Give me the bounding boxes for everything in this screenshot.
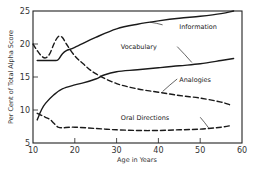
y-tick-label: 15 [20, 73, 30, 82]
leader-line [200, 117, 208, 128]
series-vocabulary [37, 59, 233, 120]
line-chart: 102030405060510152025 InformationVocabul… [0, 0, 256, 171]
y-axis-label: Per Cent of Total Alpha Score [7, 30, 15, 124]
annotation-oral-directions: Oral Directions [121, 114, 170, 122]
x-axis-label: Age in Years [117, 156, 157, 164]
y-tick-label: 5 [25, 139, 30, 148]
x-tick-label: 20 [70, 146, 80, 155]
x-tick-label: 30 [112, 146, 122, 155]
series-information [37, 11, 233, 61]
x-tick-label: 50 [195, 146, 205, 155]
y-tick-label: 20 [20, 40, 30, 49]
y-tick-label: 10 [20, 106, 30, 115]
x-tick-label: 40 [153, 146, 163, 155]
leader-line [150, 22, 163, 25]
annotation-information: Information [179, 23, 217, 31]
annotations: InformationVocabularyAnalogiesOral Direc… [121, 22, 217, 128]
leader-line [177, 47, 192, 63]
x-tick-label: 60 [237, 146, 247, 155]
annotation-analogies: Analogies [179, 76, 211, 84]
annotation-vocabulary: Vocabulary [121, 43, 157, 51]
y-tick-label: 25 [20, 7, 30, 16]
leader-line [163, 79, 178, 92]
